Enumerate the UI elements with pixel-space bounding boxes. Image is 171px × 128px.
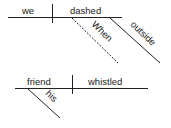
verb-whistled: whistled xyxy=(87,76,122,87)
sentence-diagram: we dashed When outside friend whistled h… xyxy=(0,0,171,128)
subject-we: we xyxy=(21,5,34,16)
modifier-when: When xyxy=(90,19,116,44)
subject-friend: friend xyxy=(27,76,51,87)
modifier-outside: outside xyxy=(129,19,159,48)
verb-dashed: dashed xyxy=(70,5,101,16)
modifier-his: his xyxy=(44,88,61,105)
